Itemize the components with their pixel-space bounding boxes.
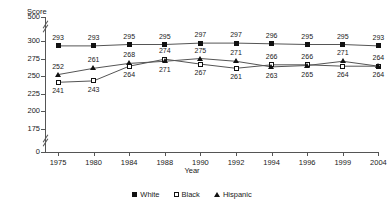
point-label-white: 297 bbox=[223, 31, 249, 38]
marker-white bbox=[198, 41, 203, 46]
marker-black bbox=[91, 78, 96, 83]
series-line-white bbox=[58, 43, 378, 46]
x-tick-mark bbox=[236, 152, 237, 156]
point-label-black: 264 bbox=[330, 71, 356, 78]
point-label-black: 264 bbox=[116, 71, 142, 78]
point-label-white: 295 bbox=[152, 33, 178, 40]
marker-hispanic bbox=[268, 64, 274, 69]
marker-white bbox=[376, 43, 381, 48]
point-label-hispanic: 275 bbox=[187, 47, 213, 54]
y-tick-label: 0 bbox=[14, 148, 40, 156]
point-label-hispanic: 271 bbox=[223, 49, 249, 56]
x-tick-mark bbox=[307, 152, 308, 156]
marker-hispanic bbox=[304, 63, 310, 68]
y-tick-mark bbox=[41, 41, 45, 42]
marker-hispanic bbox=[90, 65, 96, 70]
point-label-black: 264 bbox=[365, 54, 391, 61]
marker-white bbox=[56, 43, 61, 48]
y-tick-mark bbox=[41, 59, 45, 60]
point-label-black: 241 bbox=[45, 87, 71, 94]
x-axis-line bbox=[45, 152, 379, 153]
point-label-hispanic: 264 bbox=[365, 71, 391, 78]
legend-label: Black bbox=[182, 190, 200, 199]
x-tick-mark bbox=[200, 152, 201, 156]
point-label-white: 295 bbox=[116, 33, 142, 40]
legend-item-black[interactable]: Black bbox=[174, 190, 200, 199]
point-label-black: 266 bbox=[259, 53, 285, 60]
y-tick-mark bbox=[41, 152, 45, 153]
marker-hispanic bbox=[375, 63, 381, 68]
point-label-white: 295 bbox=[330, 33, 356, 40]
point-label-white: 295 bbox=[294, 33, 320, 40]
point-label-hispanic: 268 bbox=[116, 51, 142, 58]
marker-white bbox=[234, 41, 239, 46]
marker-white bbox=[91, 43, 96, 48]
y-tick-mark bbox=[41, 76, 45, 77]
point-label-white: 296 bbox=[259, 32, 285, 39]
point-label-hispanic: 252 bbox=[45, 63, 71, 70]
x-tick-mark bbox=[129, 152, 130, 156]
marker-hispanic bbox=[55, 72, 61, 77]
x-tick-mark bbox=[343, 152, 344, 156]
point-label-white: 293 bbox=[81, 34, 107, 41]
marker-black bbox=[234, 66, 239, 71]
y-tick-label: 500 bbox=[14, 13, 40, 21]
y-tick-label: 200 bbox=[14, 107, 40, 115]
x-tick-mark bbox=[165, 152, 166, 156]
y-tick-label: 275 bbox=[14, 55, 40, 63]
marker-white bbox=[269, 41, 274, 46]
legend-item-hispanic[interactable]: Hispanic bbox=[214, 190, 252, 199]
y-axis-break-bottom bbox=[40, 134, 51, 147]
chart-legend: WhiteBlackHispanic bbox=[0, 190, 384, 199]
marker-black bbox=[198, 62, 203, 67]
y-tick-label: 250 bbox=[14, 72, 40, 80]
y-tick-mark bbox=[41, 129, 45, 130]
legend-swatch-hispanic-icon bbox=[214, 192, 220, 197]
marker-white bbox=[340, 42, 345, 47]
x-tick-mark bbox=[58, 152, 59, 156]
point-label-black: 243 bbox=[81, 86, 107, 93]
point-label-black: 261 bbox=[223, 73, 249, 80]
x-tick-mark bbox=[272, 152, 273, 156]
marker-white bbox=[305, 42, 310, 47]
point-label-black: 274 bbox=[152, 47, 178, 54]
marker-hispanic bbox=[233, 58, 239, 63]
x-tick-mark bbox=[94, 152, 95, 156]
y-tick-label: 225 bbox=[14, 90, 40, 98]
y-tick-mark bbox=[41, 17, 45, 18]
y-tick-label: 175 bbox=[14, 125, 40, 133]
legend-label: Hispanic bbox=[223, 190, 252, 199]
legend-swatch-black-icon bbox=[174, 192, 179, 197]
y-axis-break-top bbox=[40, 20, 51, 33]
legend-swatch-white-icon bbox=[132, 192, 137, 197]
point-label-hispanic: 271 bbox=[152, 66, 178, 73]
y-tick-label: 300 bbox=[14, 37, 40, 45]
point-label-hispanic: 261 bbox=[81, 56, 107, 63]
point-label-white: 293 bbox=[365, 34, 391, 41]
point-label-black: 266 bbox=[294, 53, 320, 60]
point-label-hispanic: 263 bbox=[259, 72, 285, 79]
x-tick-mark bbox=[378, 152, 379, 156]
marker-black bbox=[56, 80, 61, 85]
marker-black bbox=[340, 64, 345, 69]
marker-hispanic bbox=[126, 60, 132, 65]
marker-hispanic bbox=[340, 58, 346, 63]
point-label-white: 297 bbox=[187, 31, 213, 38]
marker-hispanic bbox=[162, 58, 168, 63]
point-label-white: 293 bbox=[45, 34, 71, 41]
legend-label: White bbox=[140, 190, 159, 199]
point-label-black: 267 bbox=[187, 69, 213, 76]
point-label-hispanic: 265 bbox=[294, 71, 320, 78]
marker-white bbox=[127, 42, 132, 47]
marker-hispanic bbox=[197, 56, 203, 61]
y-tick-mark bbox=[41, 111, 45, 112]
legend-item-white[interactable]: White bbox=[132, 190, 159, 199]
x-axis-title: Year bbox=[0, 166, 384, 175]
point-label-hispanic: 271 bbox=[330, 49, 356, 56]
